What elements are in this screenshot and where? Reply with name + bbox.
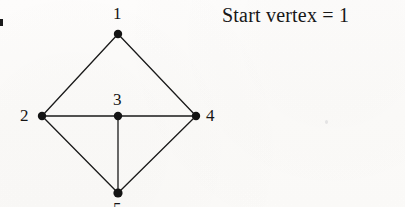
graph-nodes	[38, 30, 200, 198]
figure-root: 1 2 3 4 5 Start vertex = 1	[0, 0, 405, 207]
node-2-dot	[38, 112, 46, 120]
node-label-5: 5	[113, 200, 122, 207]
node-label-3: 3	[113, 91, 122, 108]
node-label-4: 4	[206, 107, 215, 124]
node-3-dot	[114, 112, 122, 120]
edge-4-5	[118, 116, 196, 193]
node-label-1: 1	[113, 5, 122, 22]
graph-drawing	[0, 0, 405, 207]
edge-2-5	[42, 116, 118, 193]
node-5-dot	[113, 188, 122, 197]
node-4-dot	[192, 112, 200, 120]
node-label-2: 2	[20, 107, 29, 124]
edge-1-4	[118, 34, 196, 116]
node-1-dot	[114, 30, 122, 38]
start-vertex-caption: Start vertex = 1	[222, 5, 349, 25]
edge-1-2	[42, 34, 118, 116]
